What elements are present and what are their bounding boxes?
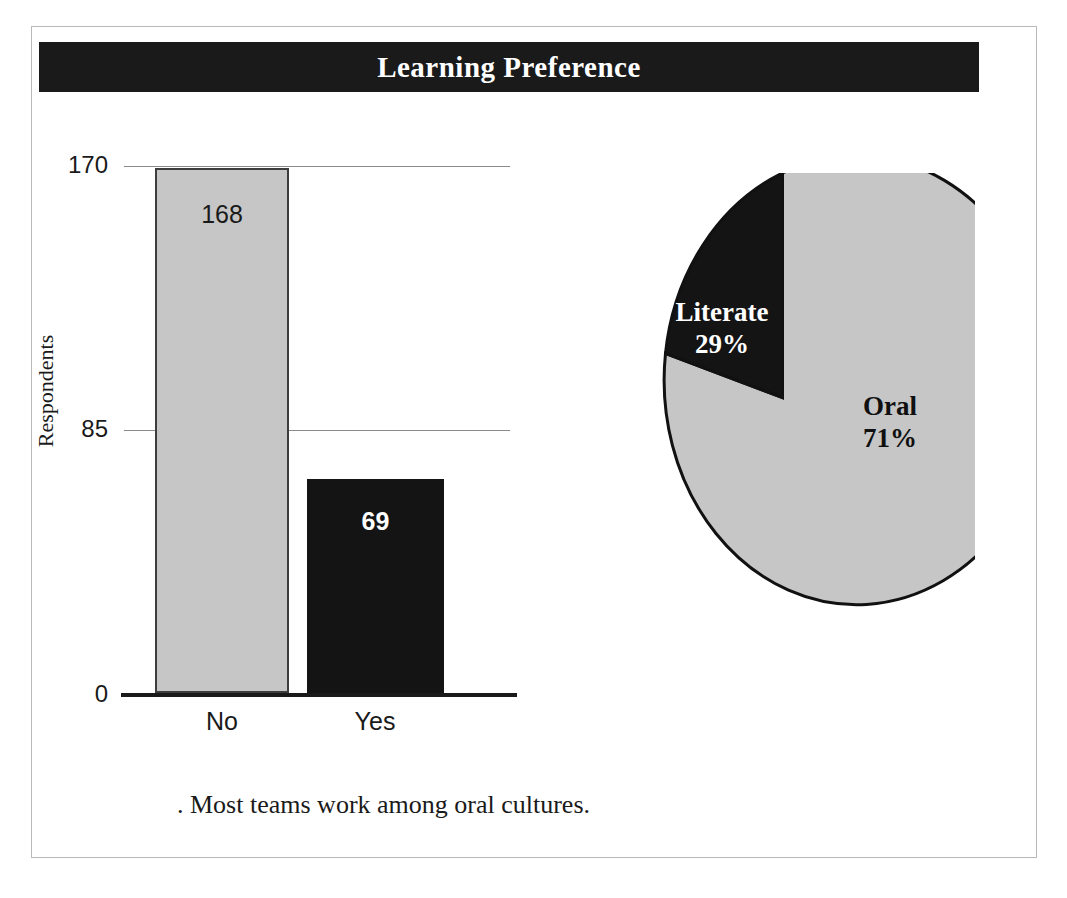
bar-yes-value-label: 69 (307, 507, 444, 536)
pie-label-oral-pct: 71% (825, 423, 955, 455)
pie-label-literate: Literate 29% (642, 297, 802, 361)
y-axis-title: Respondents (33, 311, 59, 471)
bar-no-value-label: 168 (157, 200, 287, 229)
gridline-170 (124, 166, 510, 167)
bar-yes: 69 (307, 479, 444, 693)
x-category-no: No (152, 707, 292, 736)
pie-label-oral: Oral 71% (825, 391, 955, 455)
x-category-yes: Yes (305, 707, 445, 736)
bar-chart: 170 85 0 168 69 No Yes Respondents (0, 110, 560, 750)
pie-chart: Literate 29% Oral 71% (590, 173, 975, 622)
pie-label-literate-name: Literate (642, 297, 802, 329)
y-tick-170: 170 (38, 151, 108, 179)
page-title: Learning Preference (377, 51, 641, 84)
bar-no: 168 (155, 168, 289, 693)
y-tick-0: 0 (38, 680, 108, 708)
x-axis-line (121, 693, 517, 697)
pie-label-oral-name: Oral (825, 391, 955, 423)
pie-label-literate-pct: 29% (642, 329, 802, 361)
figure-caption: . Most teams work among oral cultures. (177, 790, 590, 820)
chart-title-banner: Learning Preference (39, 42, 979, 92)
